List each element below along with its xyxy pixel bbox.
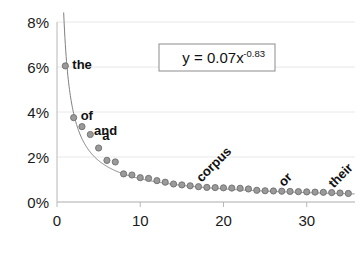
data-point (262, 188, 268, 194)
data-point (137, 175, 143, 181)
y-tick-label: 8% (27, 14, 49, 31)
point-label-a: a (102, 128, 110, 143)
y-tick-label: 0% (27, 194, 49, 211)
data-point (162, 179, 168, 185)
data-point (295, 189, 301, 195)
data-point (237, 185, 243, 191)
x-tick-label: 30 (298, 212, 315, 229)
data-point (337, 190, 343, 196)
y-axis-tick-labels: 0%2%4%6%8% (27, 14, 49, 211)
y-tick-label: 4% (27, 104, 49, 121)
data-point (62, 63, 68, 69)
data-point (212, 185, 218, 191)
data-point (345, 190, 351, 196)
data-point (79, 124, 85, 130)
data-point (287, 188, 293, 194)
data-point (204, 184, 210, 190)
data-point (270, 188, 276, 194)
data-point (329, 189, 335, 195)
chart-plot-area: theofandacorpusortheir 0%2%4%6%8% 010203… (0, 0, 363, 254)
point-label-the: the (72, 57, 92, 72)
zipf-frequency-chart: theofandacorpusortheir 0%2%4%6%8% 010203… (0, 0, 363, 254)
data-point (195, 184, 201, 190)
point-label-of: of (81, 108, 94, 123)
data-point (145, 175, 151, 181)
x-tick-label: 10 (132, 212, 149, 229)
data-point (87, 131, 93, 137)
data-point (229, 185, 235, 191)
x-axis-tick-labels: 0102030 (53, 212, 315, 229)
data-point (245, 186, 251, 192)
data-point (112, 159, 118, 165)
data-point (254, 187, 260, 193)
x-tick-label: 0 (53, 212, 61, 229)
data-point (304, 189, 310, 195)
y-tick-label: 2% (27, 149, 49, 166)
data-point (129, 172, 135, 178)
equation-text: y = 0.07x (182, 49, 244, 66)
data-point (279, 188, 285, 194)
data-point (179, 182, 185, 188)
data-point (104, 157, 110, 163)
equation-box: y = 0.07x-0.83 (159, 44, 275, 71)
y-tick-label: 6% (27, 59, 49, 76)
data-point (187, 183, 193, 189)
data-point (170, 181, 176, 187)
data-point (120, 171, 126, 177)
data-point (320, 189, 326, 195)
x-tick-label: 20 (215, 212, 232, 229)
x-axis-ticks (57, 202, 307, 207)
data-point (96, 145, 102, 151)
data-point (154, 178, 160, 184)
equation-exponent: -0.83 (243, 48, 265, 59)
point-label-corpus: corpus (193, 144, 234, 185)
point-label-or: or (275, 170, 295, 190)
data-point (71, 115, 77, 121)
data-point (312, 189, 318, 195)
data-point (220, 185, 226, 191)
point-label-their: their (325, 160, 356, 191)
